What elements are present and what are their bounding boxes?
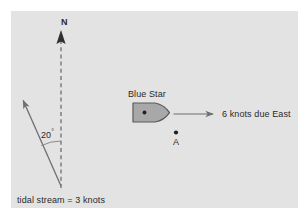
tidal-stream-label: tidal stream = 3 knots (17, 196, 105, 205)
vector-diagram-figure: N 20° tidal stream = 3 knots Blue Star A… (0, 0, 308, 224)
degree-symbol: ° (51, 128, 54, 135)
angle-value: 20 (41, 130, 51, 140)
angle-label: 20° (41, 131, 54, 140)
point-a-marker (174, 130, 178, 134)
vessel-velocity-label: 6 knots due East (222, 110, 291, 119)
vessel-centre-marker (143, 111, 147, 115)
vessel-hull-shape (133, 103, 170, 122)
point-a-label: A (173, 138, 179, 147)
vessel-name-label: Blue Star (128, 90, 166, 99)
angle-arc (41, 141, 61, 146)
north-label: N (61, 18, 68, 27)
tidal-stream-vector (23, 101, 61, 187)
